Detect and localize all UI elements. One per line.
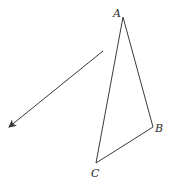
vertex-label-b: B <box>154 122 163 135</box>
vertex-label-c: C <box>91 167 100 180</box>
triangle-abc <box>96 17 153 163</box>
vector-arrow <box>9 51 103 127</box>
vertex-label-a: A <box>112 7 121 20</box>
diagram-canvas: A B C <box>0 0 170 183</box>
diagram-svg: A B C <box>0 0 170 183</box>
